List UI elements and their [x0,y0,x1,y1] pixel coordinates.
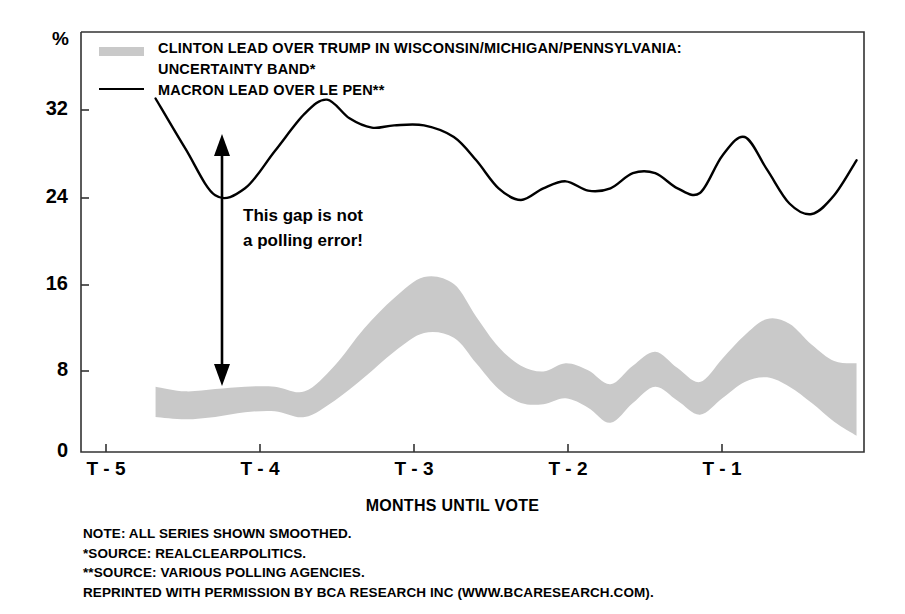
legend-label-band-line1: CLINTON LEAD OVER TRUMP IN WISCONSIN/MIC… [158,40,682,56]
footnote-note: NOTE: ALL SERIES SHOWN SMOOTHED. [83,524,654,544]
y-axis-ticks [81,110,89,371]
uncertainty-band-area [156,276,857,435]
x-axis-title: MONTHS UNTIL VOTE [0,497,905,515]
legend-label-band-line2: UNCERTAINTY BAND* [158,61,316,77]
x-axis-ticks [106,444,722,452]
legend-swatch-band [99,47,144,56]
chart-figure: % 32 24 16 8 0 T - 5 T - 4 T - 3 T - 2 T… [0,0,905,614]
footnote-source-2: **SOURCE: VARIOUS POLLING AGENCIES. [83,563,654,583]
plot-canvas [0,0,905,614]
gap-annotation-arrow [214,134,230,386]
macron-lead-line [156,99,857,215]
gap-annotation-text: This gap is not a polling error! [243,203,363,253]
footnote-source-1: *SOURCE: REALCLEARPOLITICS. [83,544,654,564]
legend-label-line: MACRON LEAD OVER LE PEN** [158,82,385,98]
footnotes-block: NOTE: ALL SERIES SHOWN SMOOTHED. *SOURCE… [83,524,654,602]
legend-swatch-line [99,88,144,90]
footnote-reprint: REPRINTED WITH PERMISSION BY BCA RESEARC… [83,583,654,603]
